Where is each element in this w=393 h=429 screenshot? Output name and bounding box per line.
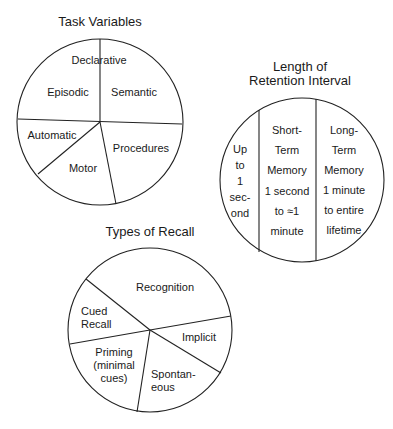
retention-title-line2: Retention Interval (249, 73, 351, 88)
memory-taxonomy-diagram: Task Variables Declarative Episodic Sema… (0, 0, 393, 429)
short-term-line: to ≈1 (275, 205, 299, 217)
label-spontaneous-line1: Spontan- (151, 368, 196, 380)
label-priming-line3: cues) (101, 372, 128, 384)
long-term-line: 1 minute (323, 184, 365, 196)
label-priming-line2: (minimal (93, 359, 135, 371)
long-term-line: to entire (324, 204, 364, 216)
task-variables-pie: Task Variables Declarative Episodic Sema… (17, 14, 183, 205)
long-term-line: Term (332, 144, 356, 156)
short-term-line: minute (270, 225, 303, 237)
label-recognition: Recognition (136, 281, 194, 293)
types-of-recall-pie: Types of Recall Recognition Cued Recall … (68, 224, 232, 412)
long-term-line: lifetime (327, 224, 362, 236)
label-episodic: Episodic (47, 86, 89, 98)
segment-long-term: Long- Term Memory 1 minute to entire lif… (323, 124, 365, 236)
label-cued-recall-line2: Recall (81, 318, 112, 330)
label-implicit: Implicit (182, 331, 216, 343)
divider-cued-priming (70, 330, 150, 344)
segment-sensory: Up to 1 sec- ond (230, 143, 251, 219)
short-term-line: Short- (272, 124, 302, 136)
label-motor: Motor (69, 162, 97, 174)
divider-recognition-implicit (150, 316, 231, 330)
divider-priming-spontaneous (137, 330, 150, 412)
label-automatic: Automatic (28, 129, 77, 141)
sensory-line: ond (231, 207, 249, 219)
sensory-line: Up (233, 143, 247, 155)
label-spontaneous-line2: eous (151, 381, 175, 393)
retention-title-line1: Length of (273, 59, 328, 74)
task-variables-title: Task Variables (58, 14, 142, 29)
label-procedures: Procedures (113, 142, 170, 154)
label-cued-recall-line1: Cued (81, 305, 107, 317)
label-semantic: Semantic (111, 86, 157, 98)
short-term-line: 1 second (265, 185, 310, 197)
short-term-line: Term (275, 144, 299, 156)
sensory-line: sec- (230, 191, 251, 203)
recall-title: Types of Recall (106, 224, 195, 239)
divider-motor-procedures (100, 122, 116, 204)
long-term-line: Memory (324, 164, 364, 176)
sensory-line: to (235, 159, 244, 171)
retention-circle (220, 98, 384, 262)
label-declarative: Declarative (71, 54, 126, 66)
short-term-line: Memory (267, 164, 307, 176)
label-priming-line1: Priming (95, 346, 132, 358)
long-term-line: Long- (330, 124, 358, 136)
segment-short-term: Short- Term Memory 1 second to ≈1 minute (265, 124, 310, 237)
sensory-line: 1 (237, 175, 243, 187)
retention-interval-pie: Length of Retention Interval Up to 1 sec… (220, 59, 384, 262)
